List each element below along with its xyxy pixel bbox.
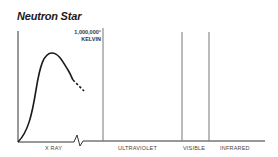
emission-curve [18, 53, 73, 142]
temperature-unit: KELVIN [74, 36, 101, 43]
emission-curve-extrapolated [73, 80, 84, 91]
spectrum-diagram [0, 0, 278, 157]
band-label-xray: X RAY [45, 145, 62, 151]
band-label-visible: VISIBLE [183, 145, 205, 151]
temperature-label: 1,000,000° KELVIN [74, 29, 101, 43]
band-label-ultraviolet: ULTRAVIOLET [118, 145, 157, 151]
band-label-infrared: INFRARED [220, 145, 250, 151]
temperature-value: 1,000,000° [74, 29, 101, 36]
